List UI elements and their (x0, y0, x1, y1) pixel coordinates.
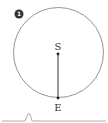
badge-number: 1 (17, 10, 21, 17)
point-e-label: E (54, 102, 61, 113)
point-e-dot (57, 97, 60, 100)
point-s-dot (57, 53, 60, 56)
baseline-line (2, 114, 106, 121)
step-badge: 1 (15, 10, 24, 19)
circle-diagram: 1 S E (0, 0, 108, 123)
point-s-label: S (55, 41, 62, 52)
